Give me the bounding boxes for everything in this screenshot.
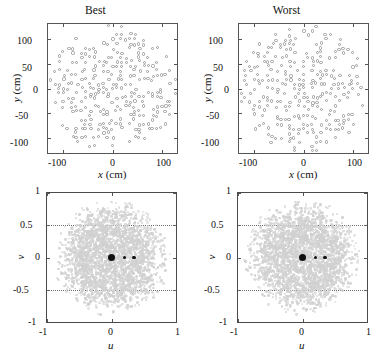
uv-sample-point [128, 285, 130, 287]
scatter-point [71, 47, 74, 50]
ytick-best-uv-05: 0.5 [20, 219, 33, 230]
scatter-point [256, 73, 259, 76]
uv-sample-point [291, 247, 293, 249]
uv-sample-point [283, 258, 286, 261]
uv-sample-point [86, 302, 89, 305]
scatter-point [339, 38, 342, 41]
scatter-point [112, 136, 115, 139]
scatter-point [298, 78, 301, 81]
uv-sample-point [288, 216, 290, 218]
scatter-point [138, 114, 141, 117]
uv-sample-point [286, 267, 289, 270]
scatter-point [266, 96, 269, 99]
uv-sample-point [72, 239, 74, 241]
uv-sample-point [342, 268, 345, 271]
scatter-point [75, 91, 78, 94]
uv-sample-point [353, 234, 356, 237]
scatter-point [288, 60, 291, 63]
scatter-point [70, 106, 73, 109]
uv-sample-point [159, 233, 162, 236]
uv-sample-point [304, 289, 307, 292]
scatter-point [324, 69, 327, 72]
scatter-point [319, 70, 322, 73]
scatter-point [258, 105, 261, 108]
scatter-point [49, 78, 52, 81]
scatter-point [132, 74, 135, 77]
tick-mark [304, 24, 305, 27]
uv-sample-point [114, 273, 117, 276]
uv-sample-point [102, 237, 104, 239]
uv-sample-point [354, 258, 356, 260]
uv-sample-point [285, 286, 288, 289]
scatter-point [88, 114, 91, 117]
uv-sample-point [278, 217, 281, 220]
uv-sample-point [281, 267, 283, 269]
uv-sample-point [125, 266, 128, 269]
scatter-point [120, 33, 123, 36]
scatter-point [319, 61, 322, 64]
uv-sample-point [99, 255, 101, 257]
uv-sample-point [91, 213, 94, 216]
scatter-point [93, 96, 96, 99]
uv-sample-point [287, 301, 289, 303]
uv-sample-point [315, 235, 318, 238]
scatter-point [151, 47, 154, 50]
scatter-point [312, 64, 315, 67]
uv-sample-point [269, 247, 271, 249]
tick-mark [48, 138, 51, 139]
scatter-point [137, 42, 140, 45]
uv-sample-point [120, 293, 123, 296]
tick-mark [176, 193, 177, 196]
scatter-point [94, 50, 97, 53]
uv-sample-point [157, 236, 159, 238]
scatter-point [342, 122, 345, 125]
uv-sample-point [314, 232, 316, 234]
uv-sample-point [153, 253, 155, 255]
scatter-point [106, 70, 109, 73]
uv-sample-point [119, 287, 122, 290]
uv-sample-point [312, 287, 315, 290]
scatter-point [293, 51, 296, 54]
uv-sample-point [330, 219, 333, 222]
uv-sample-point [99, 313, 102, 316]
scatter-point [116, 60, 119, 63]
scatter-point [356, 57, 359, 60]
uv-sample-point [142, 218, 144, 220]
uv-sample-point [356, 261, 359, 264]
uv-sample-point [333, 259, 335, 261]
tick-mark [239, 39, 242, 40]
scatter-point [97, 91, 100, 94]
uv-sample-point [97, 216, 100, 219]
scatter-point [245, 83, 248, 86]
uv-sample-point [315, 246, 317, 248]
uv-sample-point [92, 236, 95, 239]
uv-sample-point [322, 284, 324, 286]
uv-sample-point [281, 305, 283, 307]
scatter-point [307, 33, 310, 36]
uv-sample-point [354, 248, 356, 250]
uv-sample-point [272, 293, 274, 295]
scatter-point [129, 101, 132, 104]
scatter-point [130, 59, 133, 62]
uv-sample-point [145, 299, 147, 301]
uv-sample-point [113, 262, 115, 264]
uv-sample-point [325, 304, 328, 307]
scatter-point [105, 88, 108, 91]
uv-sample-point [306, 303, 308, 305]
scatter-point [80, 56, 83, 59]
scatter-point [110, 56, 113, 59]
uv-sample-point [135, 241, 137, 243]
scatter-point [134, 65, 137, 68]
uv-sample-point [130, 239, 132, 241]
scatter-point [337, 48, 340, 51]
uv-sample-point [295, 313, 298, 316]
uv-sample-point [117, 254, 120, 257]
scatter-point [351, 87, 354, 90]
uv-sample-point [156, 281, 158, 283]
uv-sample-point [293, 309, 296, 312]
scatter-point [132, 68, 135, 71]
scatter-point [88, 82, 91, 85]
scatter-point [297, 104, 300, 107]
uv-sample-point [88, 259, 90, 261]
uv-sample-point [290, 290, 292, 292]
